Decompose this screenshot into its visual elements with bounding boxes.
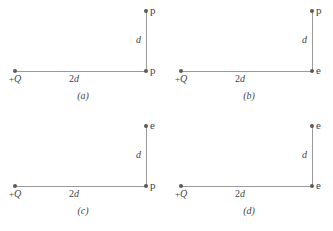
- panel-caption: (d): [166, 205, 332, 216]
- diagram-panel-c: +Q 2d d e p (c): [0, 115, 166, 230]
- top-point-label: e: [150, 120, 155, 131]
- horizontal-distance-label: 2d: [235, 74, 245, 84]
- horizontal-wire: [181, 71, 313, 72]
- corner-point-label: p: [150, 180, 156, 191]
- panel-caption: (a): [0, 90, 166, 101]
- top-point-label: p: [316, 5, 322, 16]
- charge-symbol: Q: [14, 73, 21, 84]
- vertical-distance-label: d: [302, 150, 307, 160]
- horizontal-distance-symbol: d: [74, 188, 79, 199]
- corner-point-dot: [310, 184, 314, 188]
- top-point-dot: [144, 124, 148, 128]
- horizontal-distance-label: 2d: [235, 189, 245, 199]
- vertical-wire: [146, 126, 147, 187]
- panel-caption: (c): [0, 205, 166, 216]
- corner-point-label: p: [150, 65, 156, 76]
- horizontal-wire: [181, 186, 313, 187]
- corner-point-label: e: [316, 180, 321, 191]
- corner-point-dot: [144, 69, 148, 73]
- horizontal-distance-symbol: d: [74, 73, 79, 84]
- charge-label: +Q: [175, 189, 187, 199]
- top-point-dot: [310, 9, 314, 13]
- vertical-wire: [312, 126, 313, 187]
- diagram-panel-b: +Q 2d d p e (b): [166, 0, 332, 115]
- horizontal-distance-label: 2d: [69, 74, 79, 84]
- vertical-wire: [146, 11, 147, 72]
- horizontal-distance-label: 2d: [69, 189, 79, 199]
- vertical-distance-label: d: [302, 35, 307, 45]
- charge-symbol: Q: [180, 188, 187, 199]
- panel-caption: (b): [166, 90, 332, 101]
- charge-label: +Q: [175, 74, 187, 84]
- figure-grid: +Q 2d d p p (a) +Q 2d d p e (b) +Q 2d d …: [0, 0, 333, 231]
- charge-label: +Q: [9, 74, 21, 84]
- corner-point-label: e: [316, 65, 321, 76]
- charge-symbol: Q: [14, 188, 21, 199]
- horizontal-distance-symbol: d: [240, 73, 245, 84]
- top-point-label: p: [150, 5, 156, 16]
- corner-point-dot: [310, 69, 314, 73]
- charge-label: +Q: [9, 189, 21, 199]
- corner-point-dot: [144, 184, 148, 188]
- diagram-panel-d: +Q 2d d e e (d): [166, 115, 332, 230]
- vertical-wire: [312, 11, 313, 72]
- diagram-panel-a: +Q 2d d p p (a): [0, 0, 166, 115]
- top-point-dot: [144, 9, 148, 13]
- charge-symbol: Q: [180, 73, 187, 84]
- top-point-dot: [310, 124, 314, 128]
- horizontal-wire: [15, 71, 147, 72]
- top-point-label: e: [316, 120, 321, 131]
- vertical-distance-label: d: [136, 35, 141, 45]
- vertical-distance-label: d: [136, 150, 141, 160]
- horizontal-wire: [15, 186, 147, 187]
- horizontal-distance-symbol: d: [240, 188, 245, 199]
